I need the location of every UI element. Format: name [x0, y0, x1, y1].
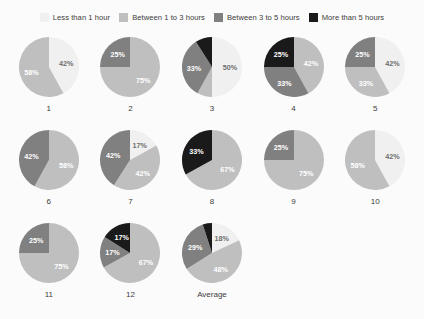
pie-chart-cell[interactable]: 67%33%8 [171, 129, 253, 222]
pie-chart-9[interactable]: 75%25% [263, 129, 325, 191]
pie-chart-cell[interactable]: 75%25%2 [90, 36, 172, 129]
pie-graphic [181, 36, 243, 98]
pie-chart-caption: 8 [210, 197, 214, 206]
pie-chart-caption: 2 [128, 104, 132, 113]
pie-chart-caption: 12 [126, 290, 135, 299]
pie-chart-caption: 5 [373, 104, 377, 113]
pie-chart-caption: 3 [210, 104, 214, 113]
pie-graphic [181, 222, 243, 284]
pie-chart-figure: Less than 1 hourBetween 1 to 3 hoursBetw… [0, 0, 424, 319]
pie-slice [264, 37, 294, 67]
pie-chart-cell[interactable]: 18%48%29%Average [171, 222, 253, 315]
pie-chart-caption: 9 [291, 197, 295, 206]
pie-graphic [344, 129, 406, 191]
legend-item-label: More than 5 hours [322, 13, 384, 22]
pie-chart-5[interactable]: 42%33%25% [344, 36, 406, 98]
pie-chart-grid: 42%58%175%25%250%33%342%33%25%442%33%25%… [8, 36, 416, 315]
pie-chart-caption: 4 [291, 104, 295, 113]
pie-chart-caption: 1 [47, 104, 51, 113]
pie-chart-cell[interactable]: 67%17%17%12 [90, 222, 172, 315]
pie-chart-3[interactable]: 50%33% [181, 36, 243, 98]
pie-chart-cell[interactable]: 75%25%11 [8, 222, 90, 315]
legend-item-label: Between 1 to 3 hours [132, 13, 205, 22]
pie-chart-caption: Average [197, 290, 227, 299]
pie-chart-11[interactable]: 75%25% [18, 222, 80, 284]
pie-chart-cell[interactable]: 58%42%6 [8, 129, 90, 222]
pie-graphic [99, 36, 161, 98]
pie-graphic [263, 36, 325, 98]
pie-chart-cell[interactable]: 42%58%10 [334, 129, 416, 222]
pie-slice [19, 223, 49, 253]
pie-chart-10[interactable]: 42%58% [344, 129, 406, 191]
pie-chart-cell[interactable]: 42%33%25%5 [334, 36, 416, 129]
pie-chart-caption: 11 [45, 290, 53, 299]
pie-chart-caption: 10 [371, 197, 380, 206]
legend-item-between-3-5h[interactable]: Between 3 to 5 hours [214, 13, 300, 22]
pie-graphic [263, 129, 325, 191]
pie-chart-cell[interactable]: 42%33%25%4 [253, 36, 335, 129]
pie-chart-4[interactable]: 42%33%25% [263, 36, 325, 98]
legend-item-less-1h[interactable]: Less than 1 hour [40, 13, 110, 22]
pie-graphic [181, 129, 243, 191]
legend-swatch-icon [119, 13, 128, 22]
pie-graphic [18, 129, 80, 191]
legend-swatch-icon [309, 13, 318, 22]
pie-slice [264, 130, 294, 160]
pie-chart-2[interactable]: 75%25% [99, 36, 161, 98]
pie-slice [212, 37, 242, 97]
pie-graphic [99, 129, 161, 191]
pie-chart-cell[interactable]: 42%58%1 [8, 36, 90, 129]
pie-chart-6[interactable]: 58%42% [18, 129, 80, 191]
pie-chart-cell[interactable]: 50%33%3 [171, 36, 253, 129]
pie-chart-7[interactable]: 17%42%42% [99, 129, 161, 191]
pie-chart-cell[interactable]: 17%42%42%7 [90, 129, 172, 222]
pie-chart-caption: 7 [128, 197, 132, 206]
pie-chart-12[interactable]: 67%17%17% [99, 222, 161, 284]
legend-item-more-5h[interactable]: More than 5 hours [309, 13, 384, 22]
pie-graphic [18, 222, 80, 284]
legend-swatch-icon [214, 13, 223, 22]
pie-chart-caption: 6 [47, 197, 51, 206]
legend-item-label: Between 3 to 5 hours [227, 13, 300, 22]
pie-slice [100, 37, 130, 67]
chart-legend: Less than 1 hourBetween 1 to 3 hoursBetw… [0, 13, 424, 22]
legend-swatch-icon [40, 13, 49, 22]
legend-item-label: Less than 1 hour [53, 13, 110, 22]
legend-item-between-1-3h[interactable]: Between 1 to 3 hours [119, 13, 205, 22]
pie-slice [345, 37, 375, 67]
pie-graphic [18, 36, 80, 98]
pie-chart-cell[interactable]: 75%25%9 [253, 129, 335, 222]
pie-chart-1[interactable]: 42%58% [18, 36, 80, 98]
pie-chart-average[interactable]: 18%48%29% [181, 222, 243, 284]
pie-chart-8[interactable]: 67%33% [181, 129, 243, 191]
pie-graphic [344, 36, 406, 98]
pie-graphic [99, 222, 161, 284]
